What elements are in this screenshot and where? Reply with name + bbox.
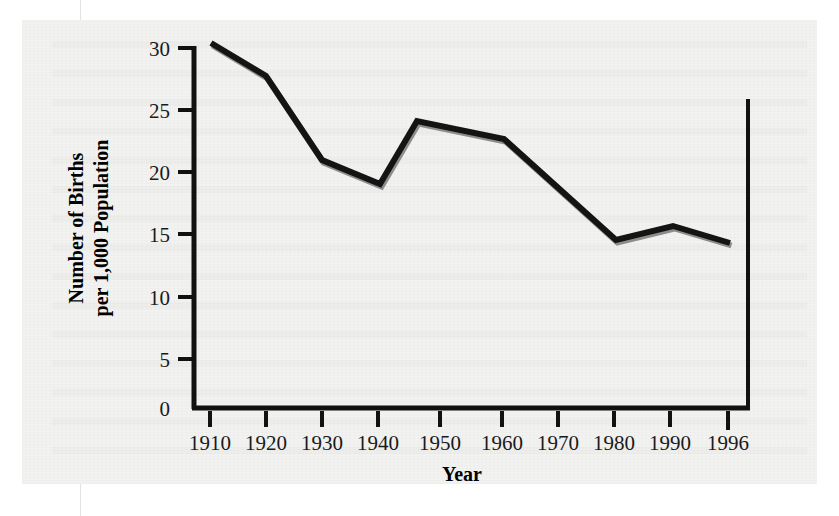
y-tick-label-15: 15 — [149, 223, 170, 247]
x-tick-label-1996: 1996 — [707, 431, 749, 455]
x-tick-label-1920: 1920 — [245, 431, 287, 455]
y-axis-title-line-1: Number of Births — [65, 152, 87, 303]
y-axis-tick-labels: 30 25 20 15 10 5 0 — [149, 37, 170, 421]
y-tick-label-10: 10 — [149, 286, 170, 310]
x-axis-ticks — [210, 411, 728, 430]
y-tick-label-0: 0 — [160, 397, 171, 421]
x-tick-label-1940: 1940 — [357, 431, 399, 455]
x-axis-title: Year — [442, 463, 482, 485]
births-rate-line-chart: 30 25 20 15 10 5 0 1910 1920 — [0, 0, 839, 516]
y-tick-label-5: 5 — [160, 348, 171, 372]
x-tick-label-1970: 1970 — [537, 431, 579, 455]
x-tick-label-1950: 1950 — [419, 431, 461, 455]
y-tick-label-20: 20 — [149, 161, 170, 185]
y-tick-label-25: 25 — [149, 99, 170, 123]
birth-rate-series-line — [211, 43, 730, 243]
x-tick-label-1930: 1930 — [301, 431, 343, 455]
birth-rate-series-shadow — [213, 46, 732, 246]
y-axis-title: Number of Births per 1,000 Population — [65, 140, 113, 317]
x-tick-label-1960: 1960 — [481, 431, 523, 455]
y-axis-title-line-2: per 1,000 Population — [90, 140, 113, 317]
x-tick-label-1910: 1910 — [189, 431, 231, 455]
x-axis-tick-labels: 1910 1920 1930 1940 1950 1960 1970 1980 … — [189, 431, 749, 455]
x-tick-label-1990: 1990 — [649, 431, 691, 455]
x-tick-label-1980: 1980 — [593, 431, 635, 455]
y-tick-label-30: 30 — [149, 37, 170, 61]
